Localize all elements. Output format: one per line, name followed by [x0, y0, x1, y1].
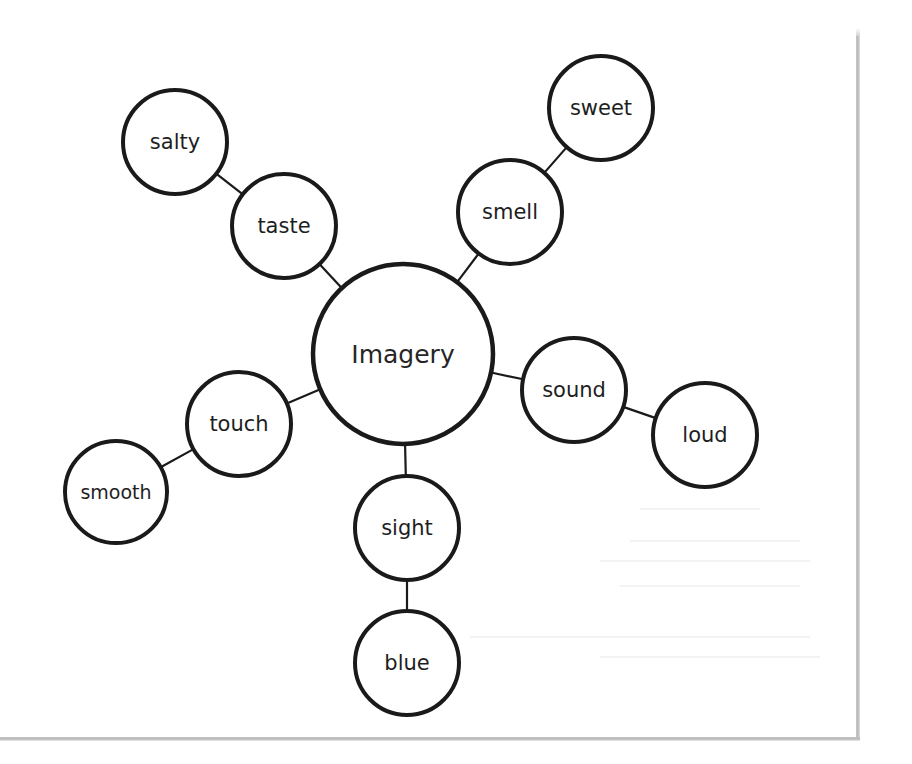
center-node-label: Imagery — [351, 340, 455, 369]
example-node-label: salty — [150, 130, 200, 154]
sense-node-label: sound — [542, 378, 606, 402]
sense-node-sound[interactable]: sound — [522, 338, 626, 442]
connector-center-to-smell — [457, 254, 479, 283]
example-node-label: sweet — [570, 96, 632, 120]
connector-center-to-sound — [491, 373, 523, 380]
center-node[interactable]: Imagery — [313, 264, 493, 444]
sense-node-touch[interactable]: touch — [187, 372, 291, 476]
connector-sound-to-loud — [623, 407, 656, 418]
worksheet-page: Imagery taste salty smell sweet — [0, 0, 912, 764]
example-node-loud[interactable]: loud — [653, 383, 757, 487]
sense-node-taste[interactable]: taste — [232, 174, 336, 278]
example-node-sweet[interactable]: sweet — [549, 56, 653, 160]
sense-node-label: smell — [482, 200, 538, 224]
sense-node-sight[interactable]: sight — [355, 476, 459, 580]
example-node-blue[interactable]: blue — [355, 611, 459, 715]
nodes: Imagery taste salty smell sweet — [65, 56, 757, 715]
example-node-label: blue — [384, 651, 429, 675]
connector-smell-to-sweet — [544, 147, 567, 173]
connector-center-to-touch — [287, 389, 320, 403]
connector-center-to-taste — [319, 264, 341, 288]
connector-center-to-sight — [405, 444, 406, 476]
imagery-concept-web: Imagery taste salty smell sweet — [0, 0, 912, 764]
connector-touch-to-smooth — [161, 449, 194, 467]
example-node-smooth[interactable]: smooth — [65, 441, 167, 543]
sense-node-label: sight — [381, 516, 433, 540]
sense-node-label: touch — [209, 412, 268, 436]
example-node-label: smooth — [80, 481, 151, 503]
sense-node-smell[interactable]: smell — [458, 160, 562, 264]
sense-node-label: taste — [257, 214, 310, 238]
example-node-salty[interactable]: salty — [123, 90, 227, 194]
connector-taste-to-salty — [216, 174, 243, 195]
example-node-label: loud — [682, 423, 727, 447]
